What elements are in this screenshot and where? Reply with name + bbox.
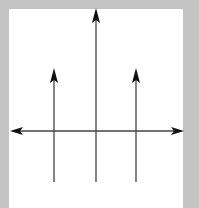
vertical-arrow-left [50,68,58,182]
impulse-diagram [0,0,199,208]
horizontal-axis-arrow [10,127,184,135]
vertical-arrow-right [132,68,140,182]
vertical-arrow-center [92,8,100,182]
